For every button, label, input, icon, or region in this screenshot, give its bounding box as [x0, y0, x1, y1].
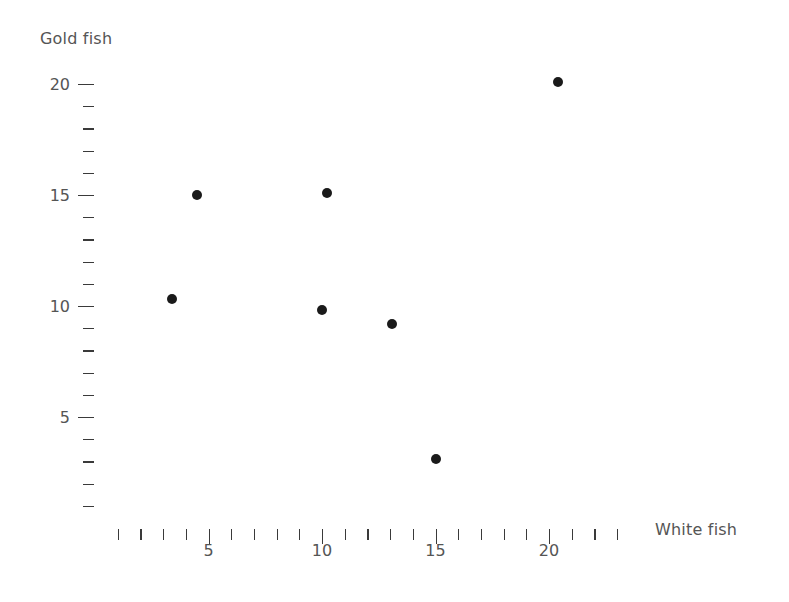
x-axis-tick — [299, 529, 300, 540]
y-axis-tick — [78, 417, 94, 418]
y-axis-tick — [83, 128, 94, 129]
y-axis-tick-label: 10 — [50, 297, 70, 316]
y-axis-tick — [83, 439, 94, 440]
y-axis-tick — [83, 506, 94, 507]
y-axis-tick — [83, 373, 94, 374]
y-axis-tick — [83, 461, 94, 462]
y-axis-title: Gold fish — [40, 29, 112, 48]
data-point — [322, 188, 332, 198]
x-axis-tick — [367, 529, 368, 540]
data-point — [431, 454, 441, 464]
x-axis-tick — [118, 529, 119, 540]
x-axis-tick-label: 15 — [425, 541, 445, 560]
y-axis-tick — [83, 350, 94, 351]
data-point — [387, 319, 397, 329]
y-axis-tick — [83, 173, 94, 174]
x-axis-tick-label: 20 — [539, 541, 559, 560]
y-axis-tick — [83, 239, 94, 240]
data-point — [167, 294, 177, 304]
x-axis-tick-label: 5 — [203, 541, 213, 560]
y-axis-tick-label: 5 — [60, 408, 70, 427]
y-axis-tick — [78, 84, 94, 85]
x-axis-tick — [186, 529, 187, 540]
x-axis-tick — [458, 529, 459, 540]
x-axis-tick — [617, 529, 618, 540]
x-axis-tick — [504, 529, 505, 540]
x-axis-tick — [481, 529, 482, 540]
x-axis-tick — [254, 529, 255, 540]
scatter-plot-figure: Gold fish White fish 5101520 5101520 — [0, 0, 789, 602]
x-axis-tick — [231, 529, 232, 540]
x-axis-tick — [345, 529, 346, 540]
x-axis-tick — [526, 529, 527, 540]
x-axis-tick — [413, 529, 414, 540]
x-axis-tick — [594, 529, 595, 540]
y-axis-tick-label: 20 — [50, 75, 70, 94]
data-point — [317, 305, 327, 315]
y-axis-tick — [83, 106, 94, 107]
y-axis-tick — [83, 284, 94, 285]
x-axis-tick — [163, 529, 164, 540]
y-axis-tick — [83, 262, 94, 263]
x-axis-tick — [140, 529, 141, 540]
y-axis-tick — [83, 217, 94, 218]
data-point — [553, 77, 563, 87]
y-axis-tick — [83, 328, 94, 329]
x-axis-tick — [277, 529, 278, 540]
x-axis-tick — [572, 529, 573, 540]
y-axis-tick — [83, 484, 94, 485]
y-axis-tick — [78, 306, 94, 307]
y-axis-tick — [83, 151, 94, 152]
x-axis-tick-label: 10 — [312, 541, 332, 560]
x-axis-tick — [390, 529, 391, 540]
x-axis-title: White fish — [655, 520, 737, 539]
y-axis-tick-label: 15 — [50, 186, 70, 205]
data-point — [192, 190, 202, 200]
y-axis-tick — [78, 195, 94, 196]
y-axis-tick — [83, 395, 94, 396]
